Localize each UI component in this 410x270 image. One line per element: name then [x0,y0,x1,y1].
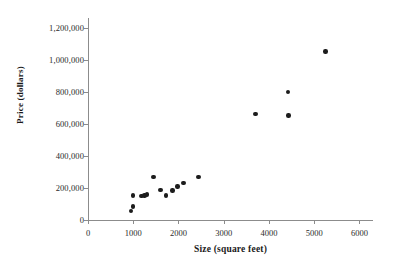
x-axis-tick-label: 5000 [306,228,323,238]
data-point [323,49,327,53]
data-point [129,209,133,213]
x-axis-tick-label: 4000 [260,228,277,238]
data-point [196,175,200,179]
data-point [286,113,290,117]
data-point [131,204,135,208]
scatter-chart: 0200,000400,000600,000800,0001,000,0001,… [0,0,410,270]
y-axis-title: Price (dollars) [15,45,25,145]
x-axis-tick-label: 2000 [170,228,187,238]
y-axis-tick-label: 1,200,000 [49,23,84,33]
data-point [253,112,257,116]
y-axis-tick-label: 400,000 [56,151,84,161]
x-axis-tick-labels: 0100020003000400050006000 [0,222,410,242]
x-axis-tick-label: 3000 [215,228,232,238]
data-point [170,188,174,192]
y-axis-tick-label: 200,000 [56,183,84,193]
y-axis-tick-label: 1,000,000 [49,55,84,65]
x-axis-title: Size (square feet) [88,244,373,254]
data-point [175,184,179,188]
data-point [286,90,290,94]
data-point [151,175,155,179]
x-axis-tick-label: 0 [86,228,90,238]
data-point [131,193,135,197]
y-axis-tick-label: 800,000 [56,87,84,97]
x-axis-tick-label: 6000 [351,228,368,238]
x-axis-line [88,220,373,221]
x-axis-tick-label: 1000 [125,228,142,238]
data-point [181,181,185,185]
data-point [158,188,162,192]
data-point [164,193,168,197]
data-point [145,192,149,196]
y-axis-tick-label: 600,000 [56,119,84,129]
plot-area [88,18,373,220]
